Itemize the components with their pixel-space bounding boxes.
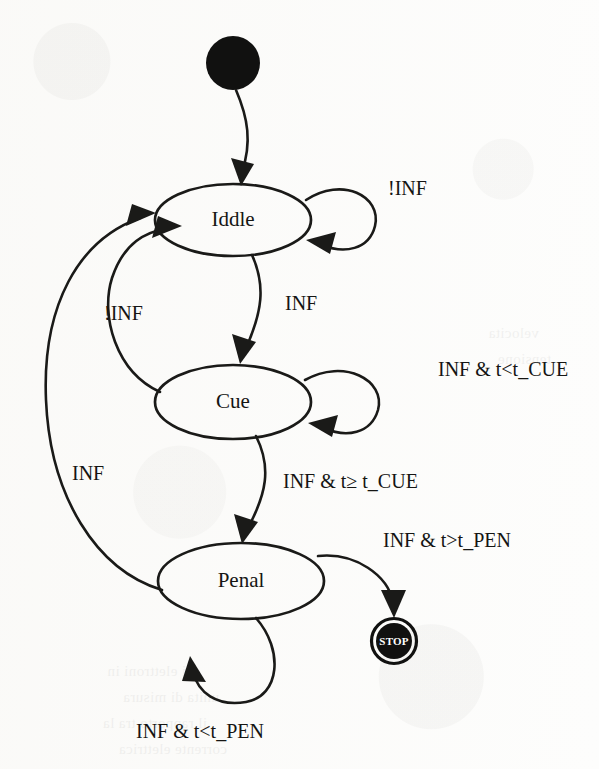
state-label-iddle: Iddle bbox=[211, 207, 254, 231]
transition-cue-self-loop[interactable] bbox=[305, 371, 379, 437]
transition-cue-to-penal[interactable] bbox=[234, 436, 265, 544]
transition-penal-self-loop[interactable] bbox=[182, 618, 275, 703]
state-machine-diagram: Iddle !INF INF !INF Cue INF & t<t_CUE bbox=[0, 0, 599, 769]
arrowhead-icon bbox=[234, 514, 258, 544]
arrowhead-icon bbox=[306, 232, 336, 254]
arrowhead-icon bbox=[308, 415, 338, 437]
edge-label-cue-to-iddle: !INF bbox=[104, 302, 143, 324]
transition-penal-to-stop[interactable] bbox=[318, 556, 406, 618]
initial-state-node[interactable] bbox=[206, 36, 260, 90]
arrowhead-icon bbox=[231, 158, 254, 186]
arrowhead-icon bbox=[182, 656, 206, 682]
transition-initial-to-iddle[interactable] bbox=[231, 90, 254, 186]
arrowhead-icon bbox=[126, 204, 156, 226]
final-state-label: STOP bbox=[379, 635, 408, 647]
arrowhead-icon bbox=[152, 216, 182, 238]
state-label-penal: Penal bbox=[218, 568, 265, 592]
edge-label-penal-self: INF & t<t_PEN bbox=[136, 720, 264, 742]
edge-label-iddle-to-cue: INF bbox=[285, 292, 317, 314]
arrowhead-icon bbox=[232, 334, 256, 364]
transition-iddle-to-cue[interactable] bbox=[232, 255, 261, 364]
edge-label-cue-self: INF & t<t_CUE bbox=[438, 358, 568, 380]
edge-label-cue-to-penal: INF & t≥ t_CUE bbox=[283, 470, 418, 492]
edge-label-iddle-self: !INF bbox=[388, 177, 427, 199]
edge-label-penal-to-iddle: INF bbox=[72, 462, 104, 484]
transition-iddle-self-loop[interactable] bbox=[306, 189, 376, 254]
state-label-cue: Cue bbox=[216, 389, 250, 413]
arrowhead-icon bbox=[381, 590, 406, 618]
state-diagram-page: di elettroni in unita di misura il rappo… bbox=[0, 0, 599, 769]
edge-label-penal-to-stop: INF & t>t_PEN bbox=[383, 529, 511, 551]
transition-penal-to-iddle[interactable] bbox=[46, 204, 162, 590]
final-state-node-stop[interactable]: STOP bbox=[372, 619, 417, 664]
